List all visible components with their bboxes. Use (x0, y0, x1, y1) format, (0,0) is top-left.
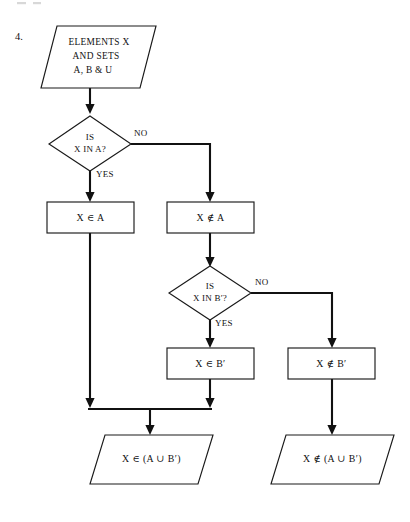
node-input-elements[interactable]: ELEMENTS X AND SETS A, B & U (41, 26, 156, 88)
edge-label-decision-b-no: NO (255, 277, 269, 287)
edge-label-decision-b-yes: YES (215, 318, 233, 328)
node-output-not-in-union[interactable]: X ∉ (A ∪ B′) (271, 435, 394, 484)
node-output-in-union[interactable]: X ∈ (A ∪ B′) (90, 435, 213, 484)
node-process-x-in-bprime-label: X ∈ B′ (195, 358, 225, 369)
node-process-x-not-in-a[interactable]: X ∉ A (167, 202, 254, 233)
edge-process-in-a-to-merge (85, 233, 94, 408)
node-process-x-not-in-a-label: X ∉ A (197, 212, 225, 223)
node-decision-x-in-a-line-1: IS (86, 132, 94, 142)
question-number: 4. (15, 31, 23, 42)
edge-process-in-bprime-to-merge (205, 379, 214, 408)
node-process-x-not-in-bprime[interactable]: X ∉ B′ (288, 348, 375, 379)
node-output-in-union-label: X ∈ (A ∪ B′) (122, 453, 181, 465)
flowchart-page: ELEMENTS X AND SETS A, B & U IS X IN A? … (0, 0, 410, 522)
node-process-x-in-bprime[interactable]: X ∈ B′ (167, 348, 254, 379)
node-process-x-in-a[interactable]: X ∈ A (47, 202, 134, 233)
edge-label-decision-a-no: NO (134, 128, 148, 138)
scan-artifact-smudges (17, 2, 41, 4)
edge-process-not-bprime-to-output (327, 379, 336, 435)
edge-process-not-a-to-decision-b (205, 233, 214, 267)
edge-merge-to-output-in-union (145, 409, 154, 435)
node-decision-x-in-bprime[interactable]: IS X IN B′? (169, 266, 251, 320)
node-decision-x-in-bprime-line-2: X IN B′? (193, 293, 227, 303)
edge-decision-a-no (131, 144, 215, 202)
node-decision-x-in-a-line-2: X IN A? (74, 144, 106, 154)
node-process-x-not-in-bprime-label: X ∉ B′ (316, 358, 346, 369)
node-decision-x-in-a[interactable]: IS X IN A? (49, 116, 131, 171)
edge-decision-b-yes (205, 318, 214, 348)
node-input-elements-line-1: ELEMENTS X (68, 37, 129, 47)
node-process-x-in-a-label: X ∈ A (77, 212, 105, 223)
node-output-not-in-union-label: X ∉ (A ∪ B′) (303, 453, 362, 465)
node-input-elements-line-3: A, B & U (74, 65, 113, 75)
edge-label-decision-a-yes: YES (96, 169, 114, 179)
node-decision-x-in-bprime-line-1: IS (206, 281, 214, 291)
flowchart-canvas: ELEMENTS X AND SETS A, B & U IS X IN A? … (0, 0, 410, 522)
edge-input-to-decision-a (85, 88, 94, 114)
edge-decision-b-no (251, 293, 337, 348)
node-input-elements-line-2: AND SETS (73, 51, 120, 61)
